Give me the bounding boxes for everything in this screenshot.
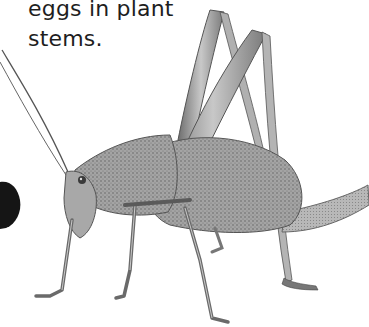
dark-shape bbox=[0, 182, 20, 229]
middle-leg bbox=[116, 205, 135, 298]
hind-foot bbox=[282, 278, 318, 290]
katydid-illustration bbox=[0, 0, 369, 327]
eye bbox=[78, 176, 86, 184]
antenna bbox=[2, 50, 68, 172]
antenna bbox=[0, 62, 66, 175]
